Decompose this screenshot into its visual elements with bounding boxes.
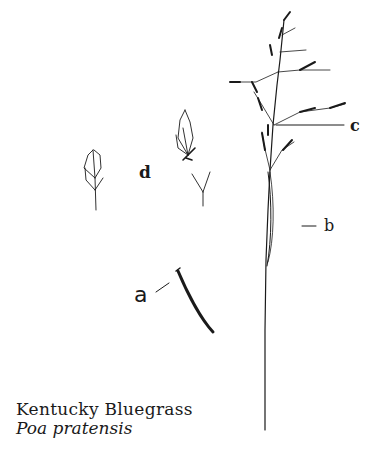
leader-line-a bbox=[156, 283, 169, 292]
botanical-illustration: a b c d Kentucky Bluegrass Poa pratensis bbox=[0, 0, 379, 465]
leaf-blade-a bbox=[176, 268, 213, 332]
panicle bbox=[236, 28, 345, 170]
spikelet-left bbox=[84, 150, 103, 210]
scientific-name-caption: Poa pratensis bbox=[16, 420, 132, 437]
label-c: c bbox=[350, 118, 360, 134]
label-a: a bbox=[134, 284, 147, 306]
spikelet-floret bbox=[176, 110, 195, 160]
spikelet-clusters bbox=[230, 12, 345, 150]
glumes bbox=[192, 172, 210, 206]
common-name-caption: Kentucky Bluegrass bbox=[16, 401, 193, 418]
label-d: d bbox=[139, 164, 151, 181]
culm-stem bbox=[265, 20, 284, 430]
label-b: b bbox=[324, 218, 334, 234]
grass-drawing bbox=[0, 0, 379, 465]
